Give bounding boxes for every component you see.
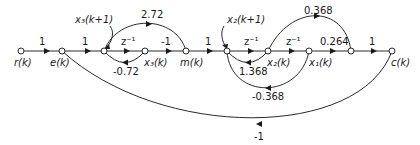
gain-x3-m: -1 [161, 36, 171, 47]
arrow-m-n2 [207, 48, 213, 54]
gain-n1-m: 2.72 [141, 9, 163, 20]
label-x2: x₂(k) [266, 57, 291, 68]
edge-c-e [62, 51, 392, 118]
edge-n1-m [104, 23, 186, 51]
gain-r-e: 1 [39, 36, 45, 47]
arrow-x2-n2 [245, 60, 251, 66]
node-x3 [142, 48, 148, 54]
edge-x2-n2 [227, 51, 268, 63]
arrow-x2-x1 [289, 48, 295, 54]
label-x3: x₃(k) [143, 57, 168, 68]
arrow-n1-m [146, 21, 152, 27]
gain-x3-n1: -0.72 [113, 66, 139, 77]
label-x3-next: x₃(k+1) [74, 14, 113, 25]
node-x2 [265, 48, 271, 54]
gain-x1-n2: -0.368 [252, 91, 284, 102]
label-x2-next: x₂(k+1) [226, 14, 265, 25]
label-x1: x₁(k) [308, 57, 333, 68]
gain-x2-x1: z⁻¹ [286, 36, 301, 47]
gain-x2-n3: 0.368 [304, 5, 333, 16]
node-x3-next [101, 48, 107, 54]
pointer-x2-next [222, 26, 226, 47]
gain-n1-x3: z⁻¹ [121, 36, 136, 47]
node-r [18, 48, 24, 54]
gain-c-e: -1 [254, 131, 264, 142]
node-e [59, 48, 65, 54]
node-x2-next [224, 48, 230, 54]
arrow-e-n1 [85, 48, 91, 54]
label-e: e(k) [50, 57, 70, 68]
gain-x1-n3: 0.264 [320, 36, 349, 47]
arrow-n3-c [371, 48, 377, 54]
node-x1 [306, 48, 312, 54]
label-c: c(k) [391, 57, 410, 68]
gain-x2-n2: 1.368 [239, 66, 268, 77]
gain-e-n1: 1 [82, 36, 88, 47]
gain-n3-c: 1 [369, 36, 375, 47]
node-m [183, 48, 189, 54]
label-m: m(k) [180, 57, 203, 68]
arrow-n2-x2 [248, 48, 254, 54]
signal-flow-graph: r(k) e(k) x₃(k+1) x₃(k) m(k) x₂(k+1) x₂(… [0, 0, 420, 145]
node-c [389, 48, 395, 54]
gain-n2-x2: z⁻¹ [244, 36, 259, 47]
arrow-n1-x3 [124, 48, 130, 54]
arrow-x1-n3 [330, 48, 336, 54]
label-r: r(k) [14, 57, 32, 68]
gain-m-n2: 1 [205, 36, 211, 47]
arrow-c-e [256, 121, 262, 127]
arrow-r-e [44, 48, 50, 54]
arrow-x3-n1 [122, 60, 128, 66]
arrow-x3-m [166, 48, 172, 54]
node-n3 [348, 48, 354, 54]
